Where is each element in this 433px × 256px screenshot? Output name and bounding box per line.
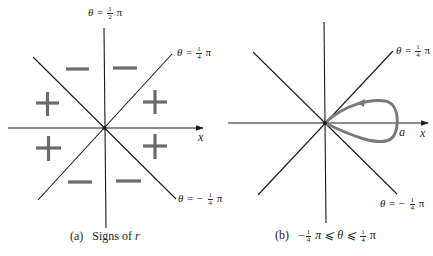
label-lhs: θ = −	[178, 192, 204, 204]
fraction: 12	[107, 6, 113, 21]
label-rhs: π	[206, 46, 212, 58]
caption-variable: r	[135, 229, 140, 243]
caption-prefix: (a)	[70, 229, 83, 243]
caption-text: Signs of	[92, 229, 132, 243]
caption-minus: −	[298, 228, 305, 242]
label-lhs: θ =	[88, 6, 104, 18]
label-theta-neg-quarter-pi-a: θ = − 14 π	[178, 192, 222, 207]
loop-intercept-label: a	[399, 125, 405, 140]
fraction-denominator: 4	[306, 237, 312, 244]
caption-b: (b) −14 π ⩽ θ ⩽ 14 π	[275, 228, 376, 244]
label-theta-neg-quarter-pi-b: θ = − 14 π	[380, 197, 424, 212]
label-theta-quarter-pi-b: θ = 14 π	[396, 44, 430, 59]
x-axis-label-b: x	[420, 126, 425, 141]
label-lhs: θ =	[396, 44, 412, 56]
fraction: 14	[196, 46, 202, 61]
fraction-denominator: 4	[415, 52, 421, 59]
caption-inequality: π ⩽ θ ⩽	[315, 228, 356, 242]
fraction: 14	[208, 192, 214, 207]
caption-a: (a) Signs of r	[70, 229, 140, 244]
origin-a	[103, 126, 107, 130]
fraction: 14	[360, 229, 366, 244]
fraction-denominator: 4	[360, 237, 366, 244]
label-lhs: θ = −	[380, 197, 406, 209]
caption-pi: π	[370, 228, 376, 242]
fraction-denominator: 4	[410, 205, 416, 212]
fraction: 14	[306, 229, 312, 244]
fraction: 14	[415, 44, 421, 59]
label-theta-half-pi: θ = 12 π	[88, 6, 122, 21]
label-rhs: π	[425, 44, 431, 56]
cosine-loop-curve	[325, 101, 397, 142]
caption-prefix: (b)	[275, 228, 289, 242]
label-rhs: π	[419, 197, 425, 209]
label-rhs: π	[117, 6, 123, 18]
fraction: 14	[410, 197, 416, 212]
loop-direction-arrow	[357, 99, 365, 107]
polar-diagrams	[0, 0, 433, 256]
fraction-denominator: 4	[196, 54, 202, 61]
origin-b	[323, 121, 327, 125]
x-axis-label-a: x	[198, 130, 203, 145]
label-theta-quarter-pi-a: θ = 14 π	[177, 46, 211, 61]
fraction-denominator: 2	[107, 14, 113, 21]
label-rhs: π	[217, 192, 223, 204]
label-lhs: θ =	[177, 46, 193, 58]
fraction-denominator: 4	[208, 200, 214, 207]
